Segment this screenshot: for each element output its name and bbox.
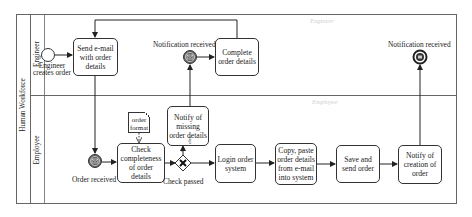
task-send-email-label: Send e-mail with order details [75,44,116,71]
diagram-canvas [0,0,472,217]
task-check-completeness[interactable]: Check completeness of order details [117,143,165,183]
task-send-email[interactable]: Send e-mail with order details [73,38,118,76]
gateway-label: Check passed [163,178,203,186]
end-event-label: Notification received [388,41,451,49]
start-event[interactable] [42,49,55,62]
data-object-order-format[interactable]: order format [128,112,150,133]
pool-label: Human Workforce [19,65,27,145]
task-login-label: Login order system [217,155,254,173]
end-event[interactable] [414,51,427,64]
notification-received-event[interactable] [184,51,197,64]
lane-watermark-engineer: Engineer [310,17,334,24]
default-flow-marker [181,150,185,151]
task-copy-paste-label: Copy, paste order details from e-mail in… [277,146,315,182]
order-received-event[interactable] [89,155,102,168]
flow-complete-to-send [95,20,237,38]
start-event-label: Engineer creates order [33,63,71,76]
task-check-completeness-label: Check completeness of order details [119,145,163,181]
notification-received-label: Notification received [153,41,216,49]
task-complete-order-details-label: Complete order details [217,48,257,66]
task-notify-creation-of-order[interactable]: Notify of creation of order [398,145,442,184]
lane-watermark-employee: Employee [312,98,338,105]
task-notify-creation-label: Notify of creation of order [400,151,440,178]
order-received-label: Order received [72,176,116,184]
gateway-branch-label: else [186,136,194,144]
exclusive-gateway[interactable] [175,155,191,171]
task-save-and-send-order[interactable]: Save and send order [336,145,380,183]
task-copy-paste-order-details[interactable]: Copy, paste order details from e-mail in… [275,143,317,185]
task-complete-order-details[interactable]: Complete order details [215,38,259,76]
task-login-order-system[interactable]: Login order system [215,144,256,183]
task-save-send-label: Save and send order [338,155,378,173]
lane-label-employee: Employee [33,120,41,180]
data-object-label: order format [130,116,148,131]
